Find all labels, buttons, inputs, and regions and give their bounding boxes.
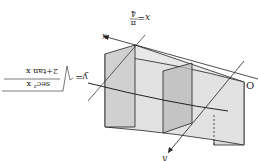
- svg-text:x=: x=: [137, 13, 150, 23]
- diagram-stage: O y x x= π 4 y= sec² x 2+tan x: [0, 0, 258, 161]
- svg-text:y=: y=: [75, 72, 89, 82]
- x-axis-label: x: [102, 31, 107, 41]
- svg-text:2+tan x: 2+tan x: [26, 67, 58, 76]
- svg-text:π: π: [131, 19, 136, 28]
- origin-label: O: [246, 80, 254, 91]
- svg-text:4: 4: [131, 9, 136, 18]
- curve-equation-label: y= sec² x 2+tan x: [2, 66, 89, 91]
- svg-text:sec² x: sec² x: [26, 80, 50, 89]
- cross-section-square: [163, 63, 192, 133]
- solid-diagram: O y x x= π 4 y= sec² x 2+tan x: [0, 0, 258, 161]
- x-bound-label: x= π 4: [130, 9, 150, 28]
- y-axis-label: y: [161, 153, 168, 161]
- end-face-pi4: [105, 45, 135, 127]
